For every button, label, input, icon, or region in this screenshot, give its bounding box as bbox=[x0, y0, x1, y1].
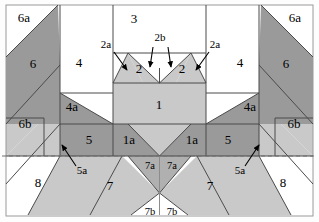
label-callout-2b: 2b bbox=[155, 31, 167, 43]
label-region-4a-left: 4a bbox=[66, 99, 79, 114]
label-region-7-right: 7 bbox=[207, 178, 214, 193]
label-region-8-right: 8 bbox=[280, 175, 287, 190]
label-region-4-right: 4 bbox=[237, 55, 244, 70]
label-region-7-left: 7 bbox=[107, 178, 114, 193]
label-region-5-right: 5 bbox=[225, 132, 232, 147]
label-region-6b-left: 6b bbox=[19, 116, 32, 131]
label-region-1: 1 bbox=[156, 97, 163, 112]
label-region-4a-right: 4a bbox=[244, 99, 257, 114]
label-region-7a-left: 7a bbox=[145, 160, 155, 171]
label-callout-2a-right: 2a bbox=[210, 38, 221, 50]
pattern-diagram-svg: 6a 6a 6 6 6b 6b 4 4 3 2 2 1 4a 4a 5 5 1a… bbox=[0, 0, 319, 222]
label-region-7a-right: 7a bbox=[167, 160, 177, 171]
label-region-6a-right: 6a bbox=[289, 10, 302, 25]
label-region-4-left: 4 bbox=[76, 55, 83, 70]
label-region-7b-right: 7b bbox=[167, 206, 178, 217]
label-region-2-left: 2 bbox=[136, 61, 143, 76]
label-callout-5a-right: 5a bbox=[235, 164, 246, 176]
label-region-8-left: 8 bbox=[35, 175, 42, 190]
region-3-shape bbox=[113, 5, 206, 53]
label-region-6a-left: 6a bbox=[18, 10, 31, 25]
label-region-6-left: 6 bbox=[30, 56, 37, 71]
label-region-3: 3 bbox=[131, 11, 138, 26]
label-region-2-right: 2 bbox=[179, 61, 186, 76]
label-region-6b-right: 6b bbox=[288, 116, 301, 131]
label-region-1a-left: 1a bbox=[123, 132, 136, 147]
label-region-7b-left: 7b bbox=[145, 206, 156, 217]
label-region-1a-right: 1a bbox=[186, 132, 199, 147]
label-region-5-left: 5 bbox=[86, 132, 93, 147]
region-5-right-shape bbox=[206, 124, 259, 156]
label-callout-5a-left: 5a bbox=[77, 164, 88, 176]
label-callout-2a-left: 2a bbox=[101, 38, 112, 50]
label-region-6-right: 6 bbox=[283, 56, 290, 71]
diagram-root: 6a 6a 6 6 6b 6b 4 4 3 2 2 1 4a 4a 5 5 1a… bbox=[0, 0, 319, 222]
